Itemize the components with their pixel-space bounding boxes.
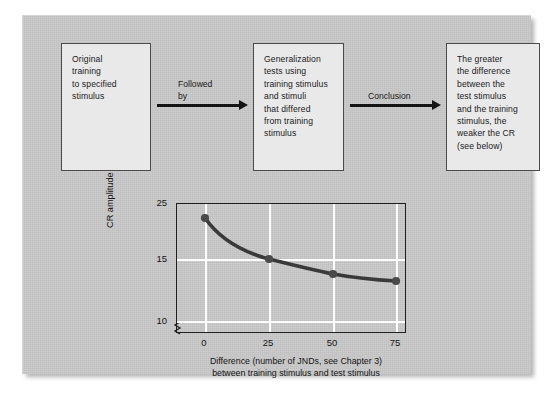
arrow-head-icon: [432, 100, 441, 110]
flow-box-conclusion-statement: The greater the difference between the t…: [446, 43, 540, 171]
figure-panel: Original training to specified stimulus …: [22, 15, 531, 374]
cr-amplitude-chart: CR amplitude 25 15 10: [131, 192, 461, 382]
chart-plot-area: [176, 203, 406, 333]
y-tick-25: 25: [137, 197, 167, 208]
data-point-0: [201, 214, 209, 222]
chart-series-cr-amplitude: [177, 204, 405, 332]
x-tick-75: 75: [382, 337, 408, 348]
arrow-line: [157, 104, 241, 107]
x-tick-0: 0: [191, 337, 217, 348]
series-line: [205, 218, 396, 281]
y-tick-10: 10: [137, 315, 167, 326]
x-tick-25: 25: [255, 337, 281, 348]
chart-y-axis-label: CR amplitude: [105, 172, 115, 228]
data-point-25: [265, 255, 273, 263]
data-point-50: [329, 270, 337, 278]
arrow-head-icon: [239, 100, 248, 110]
y-tick-15: 15: [137, 253, 167, 264]
flow-box-original-training: Original training to specified stimulus: [61, 43, 151, 171]
data-point-75: [392, 277, 400, 285]
x-tick-50: 50: [319, 337, 345, 348]
chart-x-axis-caption: Difference (number of JNDs, see Chapter …: [131, 355, 461, 379]
arrow-label-followed-by: Followed by: [178, 78, 212, 102]
arrow-label-conclusion: Conclusion: [368, 90, 411, 102]
flow-box-generalization-tests: Generalization tests using training stim…: [253, 43, 344, 171]
arrow-line: [350, 104, 434, 107]
figure-root: Original training to specified stimulus …: [0, 0, 558, 398]
